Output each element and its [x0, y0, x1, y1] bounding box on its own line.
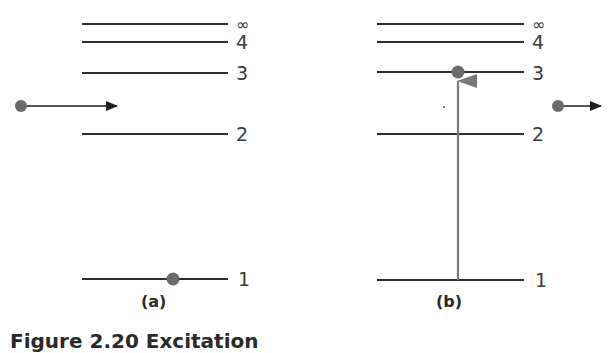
level-label-3: 3 — [532, 62, 544, 84]
panel-label-a: (a) — [141, 292, 166, 311]
ground-state-electron-dot — [167, 273, 180, 286]
panel-b: ∞ 4 3 2 1 (b) — [377, 15, 601, 311]
panel-a: ∞ 4 3 2 1 (a) — [15, 15, 250, 311]
level-label-4: 4 — [236, 31, 248, 53]
panel-label-b: (b) — [436, 292, 462, 311]
incoming-electron-dot — [15, 100, 27, 112]
level-label-2: 2 — [532, 123, 544, 145]
level-label-4: 4 — [532, 31, 544, 53]
figure-caption: Figure 2.20 Excitation — [10, 329, 259, 353]
level-label-1: 1 — [535, 269, 547, 291]
level-label-2: 2 — [236, 123, 248, 145]
level-label-1: 1 — [238, 268, 250, 290]
excited-electron-dot — [452, 66, 465, 79]
energy-levels-a — [82, 24, 228, 279]
energy-levels-b — [377, 24, 524, 280]
stray-dot — [443, 106, 445, 108]
outgoing-electron-dot — [552, 100, 564, 112]
level-label-3: 3 — [236, 62, 248, 84]
